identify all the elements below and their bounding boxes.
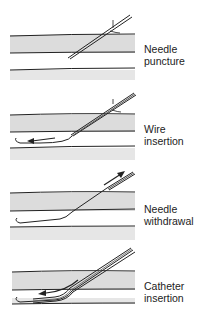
step-label-line2: withdrawal	[144, 215, 194, 227]
vessel-lumen	[10, 115, 135, 132]
angle-arc	[112, 110, 121, 112]
vessel-upper-wall	[10, 192, 135, 193]
tissue-band	[10, 70, 135, 80]
vessel-lumen	[10, 193, 135, 211]
vessel-lumen	[12, 272, 135, 290]
withdrawal-arrow-head	[117, 171, 125, 178]
vessel-lumen	[10, 35, 135, 53]
direction-arrow-shaft	[32, 138, 55, 141]
vessel-upper-wall	[10, 114, 135, 115]
step-label: Wire insertion	[144, 123, 184, 147]
step-label-line2: insertion	[144, 292, 184, 304]
step-label-line1: Needle	[144, 43, 185, 55]
wire-insertion-illustration	[0, 80, 203, 160]
step-label-line1: Catheter	[144, 280, 184, 292]
step-label: Catheter insertion	[144, 280, 184, 304]
direction-arrow-head	[38, 290, 46, 296]
tissue-line	[10, 146, 135, 148]
step-wire-insertion: Wire insertion	[0, 80, 203, 160]
step-label: Needle puncture	[144, 43, 185, 67]
needle-puncture-illustration	[0, 0, 203, 80]
withdrawal-arrow-shaft	[104, 174, 121, 185]
vessel-upper-wall	[12, 271, 135, 272]
tissue-band	[10, 227, 135, 240]
step-needle-withdrawal: Needle withdrawal	[0, 160, 203, 240]
step-label-line1: Needle	[144, 203, 194, 215]
step-label: Needle withdrawal	[144, 203, 194, 227]
tissue-line	[10, 226, 135, 227]
tissue-line	[10, 68, 135, 70]
needle-withdrawal-illustration	[0, 160, 203, 240]
step-label-line1: Wire	[144, 123, 184, 135]
needle-edge-2	[109, 174, 135, 190]
step-catheter-insertion: Catheter insertion	[0, 240, 203, 320]
tissue-band	[10, 148, 135, 160]
step-label-line2: insertion	[144, 135, 184, 147]
step-label-line2: puncture	[144, 55, 185, 67]
step-needle-puncture: Needle puncture	[0, 0, 203, 80]
angle-arc	[110, 31, 120, 33]
